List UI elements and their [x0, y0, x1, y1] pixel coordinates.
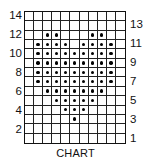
row-number-label: 7: [130, 76, 136, 88]
chart-cell: [52, 31, 61, 40]
chart-cell: [80, 49, 89, 58]
stitch-dot-icon: [82, 61, 85, 64]
chart-cell: [52, 96, 61, 105]
chart-cell: [89, 87, 98, 96]
chart-cell: [98, 59, 107, 68]
stitch-dot-icon: [46, 52, 49, 55]
chart-cell: [107, 40, 116, 49]
stitch-dot-icon: [91, 61, 94, 64]
chart-cell: [70, 40, 79, 49]
chart-cell: [107, 68, 116, 77]
chart-cell: [116, 49, 125, 58]
stitch-dot-icon: [73, 61, 76, 64]
chart-cell: [34, 134, 43, 143]
stitch-dot-icon: [82, 80, 85, 83]
chart-cell: [43, 77, 52, 86]
stitch-dot-icon: [64, 61, 67, 64]
chart-cell: [116, 12, 125, 21]
chart-cell: [61, 68, 70, 77]
chart-cell: [61, 59, 70, 68]
chart-cell: [89, 40, 98, 49]
chart-cell: [80, 68, 89, 77]
chart-cell: [25, 134, 34, 143]
chart-cell: [116, 106, 125, 115]
chart-cell: [43, 31, 52, 40]
chart-cell: [107, 77, 116, 86]
stitch-dot-icon: [46, 43, 49, 46]
stitch-dot-icon: [82, 43, 85, 46]
chart-cell: [25, 68, 34, 77]
chart-cell: [34, 12, 43, 21]
row-number-label: 3: [130, 114, 136, 126]
chart-cell: [89, 21, 98, 30]
chart-cell: [80, 106, 89, 115]
chart-cell: [89, 68, 98, 77]
row-number-label: 2: [4, 124, 22, 136]
stitch-dot-icon: [73, 52, 76, 55]
chart-cell: [43, 115, 52, 124]
stitch-dot-icon: [55, 61, 58, 64]
stitch-dot-icon: [64, 52, 67, 55]
stitch-dot-icon: [64, 108, 67, 111]
chart-cell: [61, 115, 70, 124]
chart-cell: [89, 12, 98, 21]
stitch-dot-icon: [91, 71, 94, 74]
chart-cell: [34, 77, 43, 86]
stitch-dot-icon: [91, 33, 94, 36]
chart-cell: [89, 77, 98, 86]
chart-cell: [61, 21, 70, 30]
chart-cell: [25, 96, 34, 105]
row-number-label: 5: [130, 95, 136, 107]
stitch-dot-icon: [82, 99, 85, 102]
chart-cell: [52, 40, 61, 49]
stitch-dot-icon: [82, 52, 85, 55]
stitch-dot-icon: [36, 43, 39, 46]
stitch-dot-icon: [91, 52, 94, 55]
chart-cell: [116, 134, 125, 143]
chart-cell: [89, 96, 98, 105]
stitch-dot-icon: [46, 61, 49, 64]
chart-cell: [89, 49, 98, 58]
chart-cell: [34, 21, 43, 30]
row-number-label: 8: [4, 67, 22, 79]
stitch-dot-icon: [46, 89, 49, 92]
chart-cell: [116, 59, 125, 68]
chart-cell: [70, 49, 79, 58]
chart-cell: [107, 134, 116, 143]
chart-cell: [80, 12, 89, 21]
chart-cell: [98, 49, 107, 58]
stitch-dot-icon: [91, 80, 94, 83]
chart-cell: [34, 87, 43, 96]
row-number-label: 6: [4, 86, 22, 98]
stitch-dot-icon: [100, 52, 103, 55]
chart-cell: [98, 87, 107, 96]
stitch-dot-icon: [73, 89, 76, 92]
stitch-dot-icon: [100, 71, 103, 74]
chart-cell: [52, 21, 61, 30]
chart-cell: [52, 115, 61, 124]
chart-cell: [61, 134, 70, 143]
stitch-dot-icon: [64, 71, 67, 74]
chart-cell: [89, 124, 98, 133]
chart-cell: [34, 49, 43, 58]
chart-cell: [34, 124, 43, 133]
chart-cell: [107, 115, 116, 124]
chart-cell: [70, 96, 79, 105]
stitch-dot-icon: [109, 52, 112, 55]
chart-cell: [34, 96, 43, 105]
stitch-dot-icon: [82, 108, 85, 111]
chart-cell: [52, 87, 61, 96]
chart-cell: [89, 115, 98, 124]
chart-cell: [25, 124, 34, 133]
stitch-dot-icon: [82, 89, 85, 92]
chart-cell: [25, 115, 34, 124]
chart-cell: [70, 77, 79, 86]
row-number-label: 13: [130, 19, 143, 31]
row-number-label: 9: [130, 57, 136, 69]
stitch-dot-icon: [64, 89, 67, 92]
stitch-dot-icon: [73, 71, 76, 74]
chart-cell: [61, 77, 70, 86]
chart-cell: [43, 87, 52, 96]
chart-cell: [116, 124, 125, 133]
chart-cell: [107, 96, 116, 105]
